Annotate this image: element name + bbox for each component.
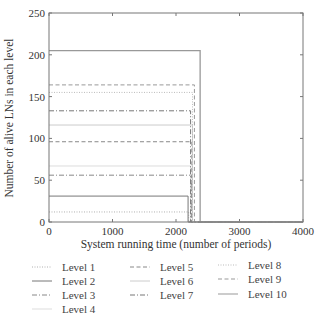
series-line-level-8 — [49, 92, 303, 222]
legend-line-swatch-icon — [216, 261, 240, 269]
series-line-level-5 — [49, 142, 303, 222]
x-axis-label: System running time (number of periods) — [81, 238, 272, 251]
series-line-level-9 — [49, 85, 303, 222]
legend-line-swatch-icon — [30, 305, 54, 313]
series-line-level-2 — [49, 196, 303, 222]
legend-item-level-1: Level 1 — [30, 261, 95, 273]
legend-item-level-2: Level 2 — [30, 275, 95, 287]
legend-item-level-6: Level 6 — [128, 275, 193, 287]
legend-label: Level 9 — [248, 273, 281, 285]
y-axis-ticks: 050100150200250 — [29, 7, 304, 228]
legend-item-level-10: Level 10 — [216, 288, 287, 300]
series-line-level-6 — [49, 125, 303, 222]
legend-label: Level 7 — [160, 289, 193, 301]
series-line-level-3 — [49, 175, 303, 222]
y-tick-label: 150 — [29, 91, 46, 103]
legend-label: Level 4 — [62, 303, 95, 315]
legend-item-level-9: Level 9 — [216, 273, 281, 285]
y-tick-label: 0 — [40, 216, 46, 228]
x-tick-label: 0 — [46, 225, 52, 237]
y-axis-label: Number of alive LNs in each level — [3, 38, 15, 197]
legend-line-swatch-icon — [216, 290, 240, 298]
legend-item-level-4: Level 4 — [30, 303, 95, 315]
x-tick-label: 4000 — [292, 225, 315, 237]
y-tick-label: 250 — [29, 7, 46, 19]
legend-line-swatch-icon — [30, 291, 54, 299]
plot-frame — [49, 13, 303, 222]
legend-label: Level 5 — [160, 261, 193, 273]
x-tick-label: 1000 — [102, 225, 125, 237]
chart-legend: Level 1Level 2Level 3Level 4Level 5Level… — [30, 261, 328, 327]
legend-item-level-7: Level 7 — [128, 289, 193, 301]
legend-item-level-8: Level 8 — [216, 259, 281, 271]
legend-label: Level 8 — [248, 259, 281, 271]
legend-line-swatch-icon — [128, 277, 152, 285]
series-line-level-4 — [49, 166, 303, 222]
y-tick-label: 200 — [29, 49, 46, 61]
y-tick-label: 50 — [34, 174, 46, 186]
legend-label: Level 1 — [62, 261, 95, 273]
legend-line-swatch-icon — [30, 263, 54, 271]
series-lines — [49, 51, 303, 222]
chart-plot: 050100150200250 01000200030004000 System… — [0, 0, 328, 260]
legend-line-swatch-icon — [128, 263, 152, 271]
y-tick-label: 100 — [29, 132, 46, 144]
legend-label: Level 2 — [62, 275, 95, 287]
legend-line-swatch-icon — [216, 275, 240, 283]
legend-label: Level 3 — [62, 289, 95, 301]
legend-label: Level 6 — [160, 275, 193, 287]
legend-item-level-3: Level 3 — [30, 289, 95, 301]
x-tick-label: 3000 — [229, 225, 252, 237]
legend-item-level-5: Level 5 — [128, 261, 193, 273]
legend-line-swatch-icon — [30, 277, 54, 285]
legend-line-swatch-icon — [128, 291, 152, 299]
x-tick-label: 2000 — [165, 225, 188, 237]
legend-label: Level 10 — [248, 288, 287, 300]
